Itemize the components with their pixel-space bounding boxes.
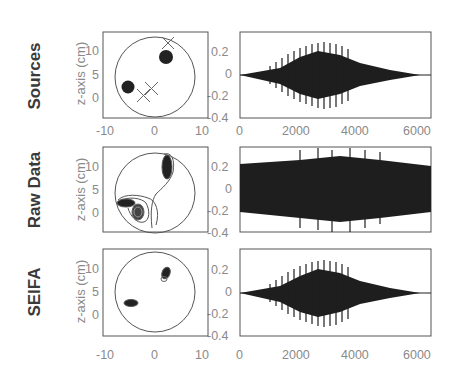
figure-graphics [0,0,458,385]
ts-panel-sources [240,32,431,118]
ts-panel-seifa [240,249,431,336]
map-panel-seifa [103,249,208,336]
map-panel-sources [103,32,208,118]
ts-panel-raw-data [240,147,431,232]
map-panel-raw-data [103,147,208,233]
